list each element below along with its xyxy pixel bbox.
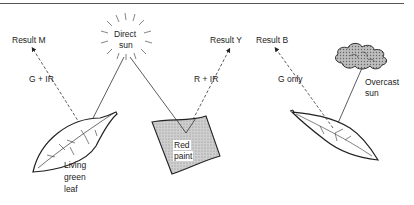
overcast-sun-label-line1: Overcast [365,77,399,87]
cloud-icon [335,43,386,69]
result-b-label: Result B [256,35,288,45]
r-ir-label: R + IR [194,74,218,84]
direct-sun-label-line1: Direct [114,29,136,39]
g-ir-label: G + IR [29,74,54,84]
right-leaf-icon [290,110,378,160]
g-only-label: G only [278,74,303,84]
diagram-canvas [0,0,414,205]
result-y-label: Result Y [210,35,242,45]
living-leaf-label-line2: green [64,172,86,182]
red-paint-label-line1: Red [173,140,191,150]
living-leaf-label-line1: Living [64,160,86,170]
overcast-sun-label-line2: sun [365,88,379,98]
result-m-label: Result M [12,35,46,45]
direct-sun-label-line2: sun [119,40,133,50]
living-leaf-label-line3: leaf [64,184,78,194]
red-paint-label-line2: paint [173,151,193,161]
